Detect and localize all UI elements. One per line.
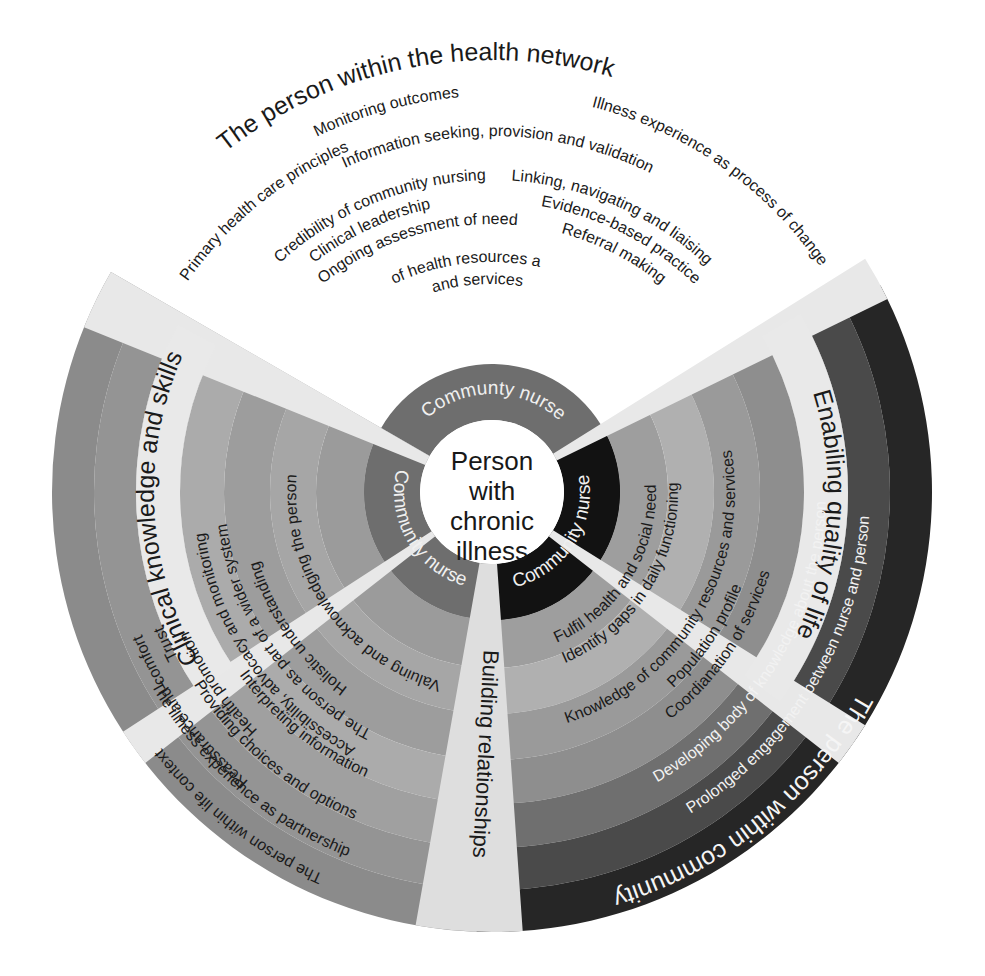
segment-primary-health-care-principles: Primary health care principles [176,138,350,284]
core-line-1: Person [451,446,533,476]
core-line-3: chronic [450,506,534,536]
sunburst-diagram-container: Communty nurseCommunity nurseCommunity n… [0,0,985,976]
segment-information-seeking: Information seeking, provision and valid… [339,122,657,176]
core-line-2: with [468,476,515,506]
core-line-4: illness [456,536,528,566]
segment-knowledge-health-resources-line2: and services [430,270,524,295]
sunburst-diagram: Communty nurseCommunity nurseCommunity n… [0,0,985,976]
segment-illness-process-of-change: Illness experience as process of change [591,93,832,268]
